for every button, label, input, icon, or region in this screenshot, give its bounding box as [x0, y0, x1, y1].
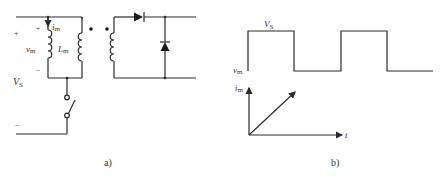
vm-axis-label: vm	[233, 65, 243, 76]
source-plus-label: +	[14, 29, 19, 38]
primary-dot-icon	[89, 27, 93, 31]
series-diode-icon	[134, 12, 144, 22]
primary-winding	[78, 17, 82, 78]
vm-label: vm	[26, 44, 36, 55]
source-vs-label: VS	[13, 76, 23, 89]
waveform-panel-b: VS vm im t b)	[233, 19, 433, 169]
im-ramp	[249, 92, 295, 135]
t-axis-label: t	[345, 130, 348, 140]
lm-label: Lm	[57, 44, 69, 55]
im-label: im	[52, 22, 61, 33]
vm-plus-label: +	[36, 25, 40, 33]
vm-waveform	[248, 31, 433, 71]
im-axis-label: im	[235, 83, 244, 94]
switch	[65, 78, 75, 134]
vm-minus-label: −	[36, 66, 41, 75]
secondary-dot-icon	[105, 27, 109, 31]
source-minus-label: −	[15, 121, 20, 130]
caption-b: b)	[331, 157, 339, 169]
caption-a: a)	[104, 157, 112, 169]
freewheeling-diode-icon	[160, 17, 170, 78]
circuit-panel-a: + − VS + − vm im Lm a)	[13, 12, 196, 169]
secondary-winding	[110, 17, 114, 78]
figure: + − VS + − vm im Lm a) VS vm im t b)	[0, 0, 442, 176]
vs-level-label: VS	[264, 19, 274, 31]
